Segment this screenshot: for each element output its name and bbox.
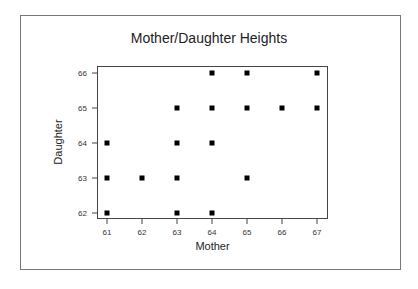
x-tick-label: 66: [278, 228, 287, 237]
data-point: [105, 141, 110, 146]
data-point: [175, 106, 180, 111]
data-point: [210, 71, 215, 76]
data-point: [210, 141, 215, 146]
y-tick-label: 64: [78, 139, 87, 148]
x-tick-label: 62: [138, 228, 147, 237]
y-tick-label: 65: [78, 104, 87, 113]
data-point: [245, 176, 250, 181]
x-tick-label: 63: [173, 228, 182, 237]
data-point: [210, 106, 215, 111]
x-tick-label: 64: [208, 228, 217, 237]
data-point: [105, 211, 110, 216]
data-point: [315, 106, 320, 111]
data-point: [175, 211, 180, 216]
x-tick-label: 65: [243, 228, 252, 237]
data-point: [280, 106, 285, 111]
data-point: [210, 211, 215, 216]
scatter-plot: 616263646566676263646566: [0, 0, 418, 289]
x-tick-label: 61: [103, 228, 112, 237]
data-point: [175, 141, 180, 146]
data-point: [245, 71, 250, 76]
data-point: [140, 176, 145, 181]
y-tick-label: 66: [78, 69, 87, 78]
data-point: [245, 106, 250, 111]
y-tick-label: 62: [78, 209, 87, 218]
data-point: [315, 71, 320, 76]
data-point: [175, 176, 180, 181]
data-point: [105, 176, 110, 181]
y-tick-label: 63: [78, 174, 87, 183]
x-tick-label: 67: [313, 228, 322, 237]
